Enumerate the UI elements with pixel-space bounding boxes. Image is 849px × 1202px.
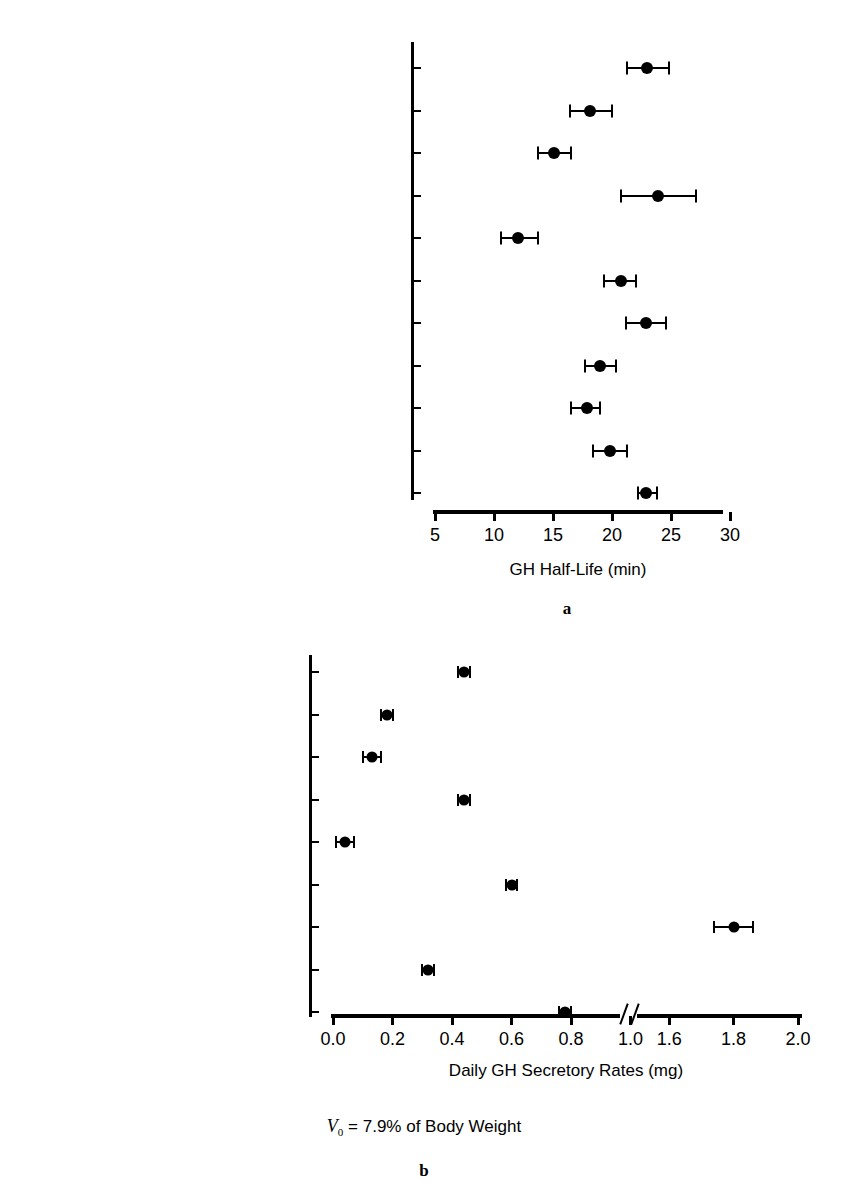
error-bar-cap (637, 487, 639, 500)
x-tick (668, 1016, 671, 1025)
data-point (458, 794, 469, 805)
panel-b-category-axis (309, 655, 312, 1017)
x-tick (732, 1016, 735, 1025)
data-point (584, 105, 596, 117)
panel-b-category-labels: Normal Young MenNormal Middle-Aged MenNo… (0, 625, 300, 1025)
axis-break-left-icon (619, 1003, 628, 1024)
error-bar-cap (713, 921, 715, 933)
x-tick (670, 512, 673, 521)
category-tick (310, 714, 319, 716)
x-tick-label: 1.0 (618, 1030, 643, 1048)
category-tick (412, 407, 421, 409)
category-tick (412, 280, 421, 282)
error-bar-cap (592, 444, 594, 457)
error-bar-cap (570, 147, 572, 160)
data-point (339, 837, 350, 848)
x-tick (611, 512, 614, 521)
x-tick-label: 30 (720, 526, 740, 544)
figure-footnote: V0 = 7.9% of Body Weight (327, 1117, 521, 1141)
x-tick-label: 1.6 (657, 1030, 682, 1048)
x-tick-label: 20 (602, 526, 622, 544)
panel-a-x-axis (433, 510, 723, 514)
x-tick-label: 10 (484, 526, 504, 544)
error-bar-cap (626, 62, 628, 75)
panel-a: Normal Young MenNormal Middle-Aged MenNo… (0, 0, 849, 625)
x-tick-label: 15 (543, 526, 563, 544)
x-tick-label: 0.2 (380, 1030, 405, 1048)
panel-a-letter: a (563, 600, 572, 617)
category-tick (310, 756, 319, 758)
category-tick (310, 969, 319, 971)
category-tick (412, 195, 421, 197)
error-bar-cap (665, 317, 667, 330)
error-bar-cap (635, 274, 637, 287)
error-bar-cap (599, 402, 601, 415)
figure-root: Normal Young MenNormal Middle-Aged MenNo… (0, 0, 849, 1202)
error-bar-cap (620, 189, 622, 202)
category-tick (310, 884, 319, 886)
category-tick (412, 152, 421, 154)
data-point (581, 402, 593, 414)
x-tick-label: 0.8 (558, 1030, 583, 1048)
category-tick (412, 110, 421, 112)
error-bar-cap (611, 104, 613, 117)
category-tick (412, 492, 421, 494)
error-bar-cap (500, 232, 502, 245)
x-tick-label: 0.6 (499, 1030, 524, 1048)
category-tick (310, 926, 319, 928)
panel-b-x-axis-right (637, 1014, 802, 1018)
panel-b-x-axis-left (331, 1014, 620, 1018)
data-point (594, 360, 606, 372)
x-tick (629, 1016, 632, 1025)
panel-b-x-axis-title: Daily GH Secretory Rates (mg) (449, 1062, 683, 1080)
data-point (423, 964, 434, 975)
x-tick (391, 1016, 394, 1025)
category-tick (310, 1011, 319, 1013)
x-tick-label: 0.4 (439, 1030, 464, 1048)
data-point (640, 317, 652, 329)
data-point (615, 275, 627, 287)
error-bar-cap (626, 444, 628, 457)
x-tick (434, 512, 437, 521)
x-tick (332, 1016, 335, 1025)
x-tick-label: 0.0 (320, 1030, 345, 1048)
data-point (506, 879, 517, 890)
data-point (560, 1007, 571, 1018)
panel-a-x-axis-title: GH Half-Life (min) (510, 561, 647, 579)
error-bar-cap (570, 402, 572, 415)
category-tick (310, 799, 319, 801)
data-point (641, 62, 653, 74)
error-bar-cap (380, 751, 382, 763)
error-bar-cap (752, 921, 754, 933)
error-bar-cap (569, 104, 571, 117)
error-bar-cap (603, 274, 605, 287)
x-tick (493, 512, 496, 521)
category-tick (412, 365, 421, 367)
error-bar-cap (668, 62, 670, 75)
error-bar-cap (335, 836, 337, 848)
x-tick (797, 1016, 800, 1025)
panel-a-category-labels: Normal Young MenNormal Middle-Aged MenNo… (0, 0, 402, 520)
x-tick-label: 5 (430, 526, 440, 544)
category-tick (310, 671, 319, 673)
error-bar-cap (615, 359, 617, 372)
data-point (604, 445, 616, 457)
x-tick-label: 1.8 (721, 1030, 746, 1048)
panel-b-letter: b (419, 1162, 428, 1179)
error-bar-cap (695, 189, 697, 202)
footnote-text: = 7.9% of Body Weight (343, 1117, 521, 1136)
x-tick (729, 512, 732, 521)
data-point (548, 147, 560, 159)
data-point (381, 709, 392, 720)
panel-b: Normal Young MenNormal Middle-Aged MenNo… (0, 625, 849, 1202)
data-point (512, 232, 524, 244)
x-tick (552, 512, 555, 521)
data-point (640, 487, 652, 499)
data-point (366, 752, 377, 763)
category-tick (310, 841, 319, 843)
x-tick (510, 1016, 513, 1025)
error-bar-cap (625, 317, 627, 330)
category-tick (412, 322, 421, 324)
data-point (652, 190, 664, 202)
data-point (728, 922, 739, 933)
